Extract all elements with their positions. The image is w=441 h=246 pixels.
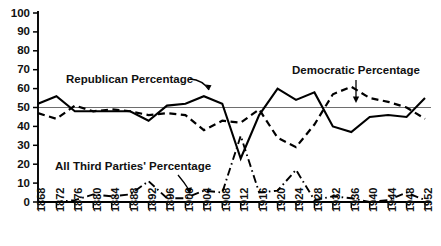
election-percentage-chart: 0102030405060708090100186818721876188018…: [0, 0, 441, 246]
y-axis-tick-label: 100: [11, 7, 30, 19]
democratic-annotation-label: Democratic Percentage: [292, 64, 420, 76]
x-axis-tick-label: 1896: [164, 188, 176, 212]
y-axis-tick-label: 20: [17, 158, 30, 170]
y-axis-tick-label: 30: [17, 139, 30, 151]
chart-canvas: 0102030405060708090100186818721876188018…: [0, 0, 441, 246]
y-axis-tick-label: 80: [17, 44, 30, 56]
republican-annotation-label: Republican Percentage: [66, 73, 193, 85]
democratic-annotation-arrowhead: [353, 97, 359, 104]
x-axis-tick-label: 1952: [422, 188, 434, 212]
y-axis-tick-label: 70: [17, 63, 30, 75]
x-axis-tick-label: 1872: [54, 188, 66, 212]
x-axis-tick-label: 1912: [238, 188, 250, 212]
democratic-series-line: [38, 87, 425, 147]
x-axis-tick-label: 1884: [109, 187, 121, 212]
y-axis-tick-label: 90: [17, 25, 30, 37]
y-axis-tick-label: 10: [17, 177, 30, 189]
x-axis-tick-label: 1892: [146, 188, 158, 212]
x-axis-tick-label: 1880: [91, 188, 103, 212]
x-axis-tick-label: 1908: [220, 188, 232, 212]
y-axis-tick-label: 40: [17, 120, 30, 132]
x-axis-tick-label: 1868: [35, 188, 47, 212]
x-axis-tick-label: 1888: [128, 188, 140, 212]
y-axis-tick-label: 0: [24, 196, 30, 208]
x-axis-tick-label: 1932: [330, 188, 342, 212]
x-axis-tick-label: 1940: [367, 188, 379, 212]
republican-series-line: [38, 89, 425, 159]
y-axis-tick-label: 50: [17, 101, 30, 113]
x-axis-tick-label: 1924: [293, 187, 305, 212]
third-parties-annotation-label: All Third Parties' Percentage: [55, 160, 211, 172]
y-axis-tick-label: 60: [17, 82, 30, 94]
x-axis-tick-label: 1948: [404, 188, 416, 212]
